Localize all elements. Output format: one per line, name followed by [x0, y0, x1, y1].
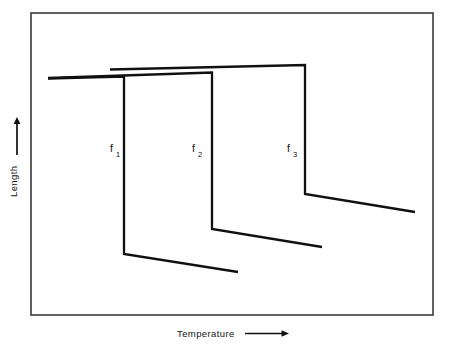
y-axis-arrow-head [14, 117, 21, 124]
curve-label-f2-base: f [192, 142, 195, 154]
curve-label-f2-subscript: 2 [198, 150, 202, 159]
curve-f3 [110, 65, 415, 212]
length-temperature-chart: f 1 f 2 f 3 Length Temperature [0, 0, 450, 350]
x-axis-arrow-head [282, 330, 290, 337]
curve-label-f3-subscript: 3 [293, 150, 297, 159]
y-axis-group: Length [8, 117, 20, 197]
chart-border-frame [31, 13, 433, 315]
curve-f2 [48, 73, 322, 248]
curve-f1 [48, 77, 238, 273]
curve-label-f2: f 2 [192, 142, 202, 159]
x-axis-label: Temperature [177, 328, 235, 339]
y-axis-label: Length [8, 166, 19, 197]
curve-label-f1-subscript: 1 [116, 150, 120, 159]
x-axis-group: Temperature [177, 328, 289, 339]
curve-label-f1-base: f [110, 142, 113, 154]
curve-label-f3-base: f [287, 142, 290, 154]
curve-label-f3: f 3 [287, 142, 297, 159]
figure-container: f 1 f 2 f 3 Length Temperature [0, 0, 450, 350]
curve-label-f1: f 1 [110, 142, 120, 159]
